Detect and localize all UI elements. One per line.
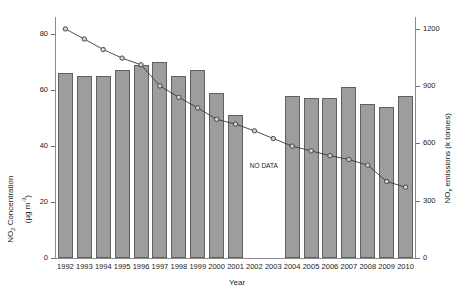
x-label-2002: 2002 — [245, 262, 264, 271]
x-label-1992: 1992 — [56, 262, 75, 271]
right-tick-label-600: 600 — [423, 139, 436, 147]
x-label-1994: 1994 — [94, 262, 113, 271]
right-tick-label-300: 300 — [423, 197, 436, 205]
right-tick-label-900: 900 — [423, 82, 436, 90]
x-label-2005: 2005 — [302, 262, 321, 271]
line-marker-2001 — [233, 122, 237, 126]
left-tick-label-80: 80 — [24, 30, 48, 38]
left-axis-title: NO2 Concentration (µg m-3) — [6, 149, 32, 269]
line-marker-1998 — [177, 95, 181, 99]
line-marker-1995 — [120, 56, 124, 60]
bottom-axis-line — [55, 258, 416, 259]
left-axis-title-line1: NO2 Concentration — [6, 176, 15, 243]
x-label-2006: 2006 — [321, 262, 340, 271]
x-label-2004: 2004 — [283, 262, 302, 271]
right-tick-label-0: 0 — [423, 254, 427, 262]
line-path — [65, 29, 405, 187]
line-marker-1992 — [63, 27, 67, 31]
x-label-2007: 2007 — [339, 262, 358, 271]
line-markers — [63, 27, 408, 190]
line-marker-1999 — [196, 106, 200, 110]
line-marker-2000 — [214, 117, 218, 121]
x-label-1996: 1996 — [132, 262, 151, 271]
right-axis-line — [415, 17, 416, 258]
right-tick-600 — [416, 143, 420, 144]
line-marker-2007 — [347, 157, 351, 161]
line-marker-1994 — [101, 47, 105, 51]
left-tick-80 — [51, 34, 55, 35]
x-axis-labels: 1992199319941995199619971998199920002001… — [56, 262, 415, 274]
x-label-2008: 2008 — [358, 262, 377, 271]
left-tick-0 — [51, 258, 55, 259]
line-marker-2005 — [309, 149, 313, 153]
x-label-2009: 2009 — [377, 262, 396, 271]
x-label-2001: 2001 — [226, 262, 245, 271]
line-marker-2009 — [385, 179, 389, 183]
plot-area: NO DATA — [56, 17, 415, 258]
line-marker-2010 — [403, 185, 407, 189]
right-tick-label-1200: 1200 — [423, 25, 440, 33]
x-label-2000: 2000 — [207, 262, 226, 271]
line-marker-2002 — [252, 129, 256, 133]
right-axis-title: NOx emissions (k tonnes) — [443, 98, 456, 218]
x-label-2010: 2010 — [396, 262, 415, 271]
left-axis-title-line2: (µg m-3) — [18, 149, 32, 269]
line-marker-2008 — [366, 163, 370, 167]
line-marker-2004 — [290, 144, 294, 148]
line-series — [56, 17, 415, 258]
left-tick-label-60: 60 — [24, 86, 48, 94]
line-marker-1997 — [158, 84, 162, 88]
right-tick-0 — [416, 258, 420, 259]
x-label-2003: 2003 — [264, 262, 283, 271]
x-axis-title: Year — [0, 278, 474, 288]
line-marker-2006 — [328, 154, 332, 158]
left-tick-40 — [51, 146, 55, 147]
x-label-1995: 1995 — [113, 262, 132, 271]
right-axis-title-text: NOx emissions (k tonnes) — [443, 113, 452, 203]
x-label-1997: 1997 — [151, 262, 170, 271]
right-tick-1200 — [416, 29, 420, 30]
right-tick-300 — [416, 201, 420, 202]
x-label-1998: 1998 — [169, 262, 188, 271]
line-marker-1993 — [82, 37, 86, 41]
line-marker-1996 — [139, 63, 143, 67]
x-label-1993: 1993 — [75, 262, 94, 271]
x-label-1999: 1999 — [188, 262, 207, 271]
right-tick-900 — [416, 86, 420, 87]
line-marker-2003 — [271, 136, 275, 140]
nox-chart: 020406080 03006009001200 NO2 Concentrati… — [0, 0, 474, 298]
left-tick-60 — [51, 90, 55, 91]
left-tick-20 — [51, 202, 55, 203]
